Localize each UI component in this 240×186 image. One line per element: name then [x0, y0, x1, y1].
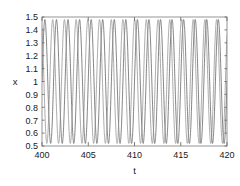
y-tick-label: 0.8	[25, 103, 38, 113]
x-tick-label: 420	[219, 150, 234, 160]
y-tick-label: 1.1	[25, 64, 38, 74]
y-tick-label: 0.7	[25, 116, 38, 126]
x-tick-label: 400	[34, 150, 49, 160]
y-tick-label: 0.9	[25, 90, 38, 100]
x-axis-title: t	[133, 165, 136, 176]
y-tick-label: 1.3	[25, 38, 38, 48]
x-tick-label: 410	[127, 150, 142, 160]
y-tick-label: 1	[33, 77, 38, 87]
y-tick-label: 0.6	[25, 128, 38, 138]
y-tick-label: 1.5	[25, 12, 38, 22]
plot-canvas: 400405410415420 0.50.60.70.80.911.11.21.…	[0, 0, 240, 186]
y-axis-title: x	[13, 76, 18, 87]
chart-figure: 400405410415420 0.50.60.70.80.911.11.21.…	[0, 0, 240, 186]
y-tick-label: 1.4	[25, 25, 38, 35]
y-tick-label: 0.5	[25, 141, 38, 151]
y-tick-label: 1.2	[25, 51, 38, 61]
x-tick-label: 415	[173, 150, 188, 160]
x-tick-label: 405	[81, 150, 96, 160]
